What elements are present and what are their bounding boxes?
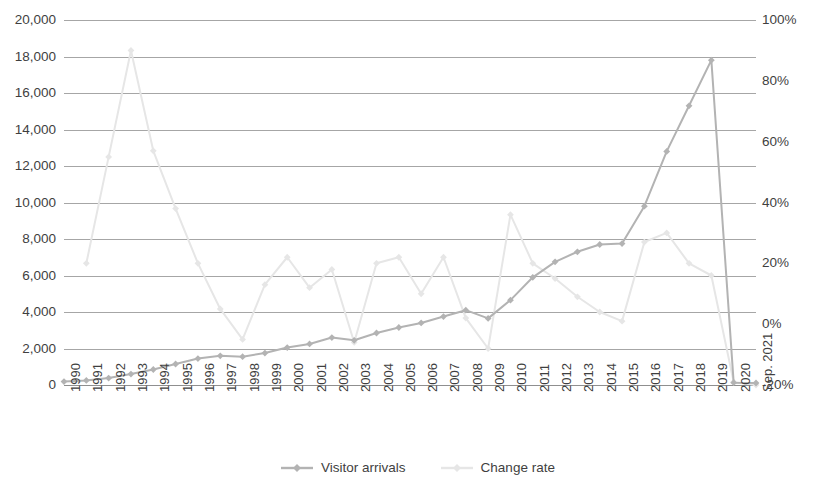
category-tick-label: 1990 <box>69 363 82 392</box>
category-tick-label: 1997 <box>225 363 238 392</box>
data-point-marker <box>619 318 626 325</box>
category-tick-label: Sep. 2021 <box>761 333 774 392</box>
category-tick-label: 2003 <box>359 363 372 392</box>
data-point-marker <box>418 320 425 327</box>
category-tick-label: 1993 <box>136 363 149 392</box>
data-point-marker <box>440 313 447 320</box>
category-tick-label: 2015 <box>627 363 640 392</box>
data-point-marker <box>150 366 157 373</box>
category-tick-label: 1992 <box>114 363 127 392</box>
data-point-marker <box>686 102 693 109</box>
data-point-marker <box>641 239 648 246</box>
right-axis-tick-label: 80% <box>762 74 789 88</box>
data-point-marker <box>83 377 90 384</box>
right-axis-tick-label: 0% <box>762 317 782 331</box>
data-point-marker <box>172 205 179 212</box>
data-point-marker <box>128 47 135 54</box>
category-tick-label: 1991 <box>91 363 104 392</box>
data-point-marker <box>105 375 112 382</box>
data-point-marker <box>453 464 461 472</box>
legend-item[interactable]: Change rate <box>440 460 555 475</box>
left-axis-tick-label: 10,000 <box>15 196 56 210</box>
data-point-marker <box>262 350 269 357</box>
category-tick-label: 1999 <box>270 363 283 392</box>
left-axis-tick-label: 12,000 <box>15 159 56 173</box>
category-tick-label: 1996 <box>203 363 216 392</box>
category-tick-label: 2014 <box>605 363 618 392</box>
data-point-marker <box>596 241 603 248</box>
data-point-marker <box>105 153 112 160</box>
category-tick-label: 2011 <box>538 364 551 392</box>
data-point-marker <box>328 334 335 341</box>
category-tick-label: 2004 <box>382 363 395 392</box>
category-tick-label: 2006 <box>426 363 439 392</box>
data-point-marker <box>239 353 246 360</box>
left-axis-tick-label: 14,000 <box>15 123 56 137</box>
data-point-marker <box>195 355 202 362</box>
category-tick-label: 2017 <box>672 363 685 392</box>
legend-label: Visitor arrivals <box>321 460 406 475</box>
data-point-marker <box>373 330 380 337</box>
data-point-marker <box>61 378 68 385</box>
data-point-marker <box>306 341 313 348</box>
legend-marker-icon <box>280 462 314 474</box>
right-axis-tick-label: 60% <box>762 135 789 149</box>
right-axis-tick-label: 100% <box>762 13 797 27</box>
category-tick-label: 2002 <box>337 363 350 392</box>
category-tick-label: 2020 <box>739 363 752 392</box>
legend-marker-icon <box>440 462 474 474</box>
category-tick-label: 2010 <box>515 363 528 392</box>
dual-axis-line-chart: 02,0004,0006,0008,00010,00012,00014,0001… <box>0 0 835 490</box>
category-tick-label: 1995 <box>181 363 194 392</box>
series-line <box>86 50 756 385</box>
category-tick-label: 2005 <box>404 363 417 392</box>
left-axis-tick-label: 6,000 <box>22 269 56 283</box>
data-point-marker <box>284 344 291 351</box>
category-tick-label: 2012 <box>560 363 573 392</box>
category-tick-label: 2016 <box>649 363 662 392</box>
data-point-marker <box>195 260 202 267</box>
left-axis-tick-label: 2,000 <box>22 342 56 356</box>
category-tick-label: 2007 <box>448 363 461 392</box>
left-axis-tick-label: 16,000 <box>15 86 56 100</box>
data-point-marker <box>83 260 90 267</box>
data-point-marker <box>507 211 514 218</box>
left-axis-tick-label: 20,000 <box>15 13 56 27</box>
data-point-marker <box>373 260 380 267</box>
data-point-marker <box>293 464 301 472</box>
plot-area <box>64 20 756 385</box>
series-line <box>64 60 756 383</box>
data-point-marker <box>128 371 135 378</box>
category-tick-label: 2018 <box>694 363 707 392</box>
category-tick-label: 2008 <box>471 363 484 392</box>
data-point-marker <box>708 57 715 64</box>
data-point-marker <box>172 361 179 368</box>
category-tick-label: 1998 <box>248 363 261 392</box>
right-axis-tick-label: 20% <box>762 256 789 270</box>
left-axis-tick-label: 8,000 <box>22 232 56 246</box>
category-tick-label: 2013 <box>582 363 595 392</box>
left-axis-tick-label: 0 <box>48 378 56 392</box>
category-tick-label: 2019 <box>716 363 729 392</box>
category-tick-label: 2001 <box>315 363 328 392</box>
legend-label: Change rate <box>481 460 555 475</box>
chart-legend: Visitor arrivalsChange rate <box>0 460 835 475</box>
data-point-marker <box>663 148 670 155</box>
category-tick-label: 1994 <box>158 363 171 392</box>
data-point-marker <box>150 147 157 154</box>
left-axis-tick-label: 4,000 <box>22 305 56 319</box>
data-point-marker <box>217 352 224 359</box>
legend-item[interactable]: Visitor arrivals <box>280 460 406 475</box>
data-point-marker <box>574 248 581 255</box>
category-tick-label: 2009 <box>493 363 506 392</box>
series-lines <box>64 20 756 385</box>
data-point-marker <box>395 324 402 331</box>
left-axis-tick-label: 18,000 <box>15 50 56 64</box>
right-axis-tick-label: 40% <box>762 196 789 210</box>
category-tick-label: 2000 <box>292 363 305 392</box>
